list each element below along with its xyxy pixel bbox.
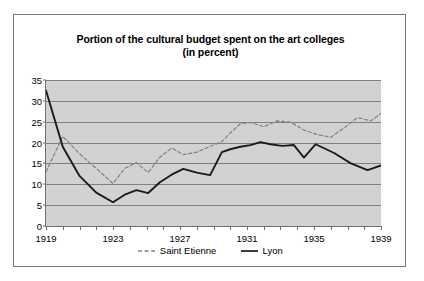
x-tick-label: 1919 (35, 233, 56, 244)
x-tick-label: 1931 (236, 233, 257, 244)
y-tick-mark (43, 205, 46, 206)
x-tick-mark (113, 226, 114, 230)
y-tick-mark (43, 121, 46, 122)
plot-svg (46, 80, 381, 226)
y-tick-label: 35 (31, 75, 42, 86)
plot-area: 05101520253035 191919231927193119351939 (46, 80, 381, 226)
legend-swatch-solid-icon (241, 247, 258, 255)
x-tick-mark (348, 226, 349, 230)
y-tick-mark (43, 142, 46, 143)
x-tick-mark (314, 226, 315, 230)
x-tick-mark (214, 226, 215, 230)
legend-item-saint-etienne: Saint Etienne (138, 244, 216, 256)
y-tick-label: 25 (31, 116, 42, 127)
x-tick-label: 1939 (370, 233, 391, 244)
y-tick-label: 30 (31, 95, 42, 106)
y-tick-mark (43, 184, 46, 185)
x-tick-mark (163, 226, 164, 230)
chart-frame: Portion of the cultural budget spent on … (13, 14, 406, 267)
y-tick-label: 20 (31, 137, 42, 148)
x-tick-mark (46, 226, 47, 230)
chart-title-line-1: Portion of the cultural budget spent on … (14, 33, 407, 46)
x-tick-mark (80, 226, 81, 230)
x-tick-mark (230, 226, 231, 230)
x-tick-mark (180, 226, 181, 230)
chart-title-line-2: (in percent) (14, 46, 407, 59)
gridlines (46, 81, 381, 206)
y-tick-label: 5 (37, 200, 42, 211)
x-tick-mark (381, 226, 382, 230)
x-tick-mark (264, 226, 265, 230)
y-tick-mark (43, 100, 46, 101)
x-tick-mark (247, 226, 248, 230)
series-line-saint-etienne (46, 113, 381, 183)
x-tick-label: 1927 (169, 233, 190, 244)
x-tick-mark (96, 226, 97, 230)
chart-title: Portion of the cultural budget spent on … (14, 33, 407, 59)
x-tick-mark (63, 226, 64, 230)
y-tick-label: 0 (37, 221, 42, 232)
legend-label-lyon: Lyon (263, 245, 283, 256)
x-tick-label: 1935 (303, 233, 324, 244)
x-tick-mark (297, 226, 298, 230)
legend-label-saint-etienne: Saint Etienne (160, 245, 217, 256)
y-tick-mark (43, 163, 46, 164)
chart-figure: Portion of the cultural budget spent on … (0, 0, 424, 281)
x-tick-mark (130, 226, 131, 230)
legend-item-lyon: Lyon (241, 244, 283, 256)
series-lines (46, 90, 381, 202)
x-tick-mark (197, 226, 198, 230)
y-tick-label: 10 (31, 179, 42, 190)
legend-swatch-dashed-icon (138, 247, 155, 255)
x-tick-mark (364, 226, 365, 230)
x-tick-mark (147, 226, 148, 230)
chart-legend: Saint Etienne Lyon (14, 244, 407, 256)
x-tick-mark (280, 226, 281, 230)
x-tick-label: 1923 (102, 233, 123, 244)
y-tick-label: 15 (31, 158, 42, 169)
x-tick-mark (331, 226, 332, 230)
series-line-lyon (46, 90, 381, 202)
y-tick-mark (43, 80, 46, 81)
